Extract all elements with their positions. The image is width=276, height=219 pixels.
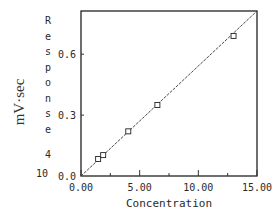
- x-tick-label: 15.00: [242, 182, 272, 193]
- x-tick-labels: 0.005.0010.0015.00: [69, 182, 272, 193]
- y-axis-label-char: o: [45, 77, 51, 88]
- y-axis-label-char: e: [45, 124, 51, 135]
- y-axis-label-char: s: [45, 46, 51, 57]
- x-tick-label: 10.00: [183, 182, 213, 193]
- x-tick-label: 5.00: [128, 182, 152, 193]
- y-tick-label: 0.0: [58, 171, 76, 182]
- y-axis-label-char: n: [45, 93, 51, 104]
- y-axis-label-char: p: [45, 62, 51, 73]
- calibration-chart: mV·sec Response 4 10 0.00.30.6 0.005.001…: [0, 0, 276, 219]
- y-tick-labels: 0.00.30.6: [58, 49, 76, 182]
- y-axis-exponent-base: 10: [36, 168, 48, 179]
- y-axis-label-char: R: [45, 15, 52, 26]
- y-tick-label: 0.6: [58, 49, 76, 60]
- data-point: [155, 102, 160, 107]
- data-point: [126, 129, 131, 134]
- y-axis-units-label: mV·sec: [11, 78, 27, 125]
- data-point: [96, 156, 101, 161]
- x-ticks: [81, 170, 257, 176]
- x-tick-label: 0.00: [69, 182, 93, 193]
- y-axis-label: Response: [45, 15, 52, 135]
- y-axis-exponent-note: 4: [45, 149, 51, 160]
- y-axis-label-char: e: [45, 31, 51, 42]
- y-axis-label-char: s: [45, 108, 51, 119]
- data-point: [231, 33, 236, 38]
- data-point: [101, 153, 106, 158]
- x-axis-label: Concentration: [126, 197, 212, 210]
- y-tick-label: 0.3: [58, 110, 76, 121]
